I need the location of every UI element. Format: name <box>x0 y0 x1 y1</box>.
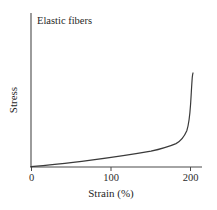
y-axis-title: Stress <box>7 87 19 113</box>
curve-elastic-fibers <box>31 73 193 167</box>
x-tick-label-100: 100 <box>103 172 119 183</box>
plot-title: Elastic fibers <box>37 15 92 26</box>
chart-figure: 0 100 200 Strain (%) Stress Elastic fibe… <box>0 0 217 210</box>
x-tick-label-200: 200 <box>183 172 199 183</box>
x-axis-title: Strain (%) <box>88 187 134 200</box>
stress-strain-plot: 0 100 200 Strain (%) Stress Elastic fibe… <box>0 0 217 210</box>
x-tick-label-0: 0 <box>29 172 34 183</box>
